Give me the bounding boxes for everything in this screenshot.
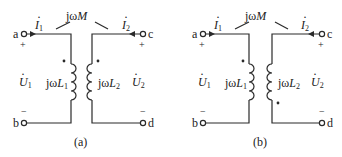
panel-b-circuit bbox=[200, 22, 324, 126]
terminal-c-label: c bbox=[327, 28, 332, 40]
inductor-l2-coil bbox=[87, 64, 92, 100]
plus-left-label: + bbox=[199, 40, 205, 50]
current-i2-label: I2 bbox=[122, 19, 130, 33]
polarity-dot-l1-icon bbox=[63, 60, 66, 63]
inductor-l2-label: jωL2 bbox=[278, 77, 300, 91]
wire-bottom-right bbox=[92, 100, 140, 123]
terminal-d-label: d bbox=[148, 117, 154, 129]
panel-b-markers bbox=[209, 31, 314, 104]
terminal-c-node bbox=[319, 31, 324, 36]
plus-right-label: + bbox=[139, 40, 145, 50]
minus-right-label: − bbox=[140, 107, 146, 117]
mutual-inductance-label: jωM bbox=[245, 10, 266, 22]
terminal-a-label: a bbox=[13, 28, 18, 40]
wire-top-left bbox=[27, 34, 71, 64]
terminal-d-node bbox=[319, 120, 324, 125]
voltage-u2-label: U2 bbox=[311, 76, 324, 90]
voltage-u2-label: U2 bbox=[132, 76, 145, 90]
mutual-leader-right bbox=[275, 22, 288, 29]
wire-top-right bbox=[92, 34, 140, 64]
wire-top-right bbox=[272, 34, 319, 64]
terminal-b-label: b bbox=[13, 117, 19, 129]
plus-right-label: + bbox=[318, 40, 324, 50]
mutual-leader-left bbox=[56, 22, 70, 29]
terminal-c-node bbox=[140, 31, 145, 36]
mutual-leader-left bbox=[235, 22, 249, 29]
terminal-a-label: a bbox=[192, 28, 197, 40]
terminal-b-node bbox=[200, 120, 205, 125]
minus-left-label: − bbox=[21, 107, 27, 117]
terminal-d-label: d bbox=[327, 117, 333, 129]
terminal-b-label: b bbox=[192, 117, 198, 129]
inductor-l1-label: jωL1 bbox=[225, 77, 247, 91]
minus-left-label: − bbox=[200, 107, 206, 117]
mutual-inductance-label: jωM bbox=[66, 10, 87, 22]
terminal-d-node bbox=[140, 120, 145, 125]
panel-a-markers bbox=[30, 31, 135, 62]
panel-a-circuit bbox=[21, 22, 145, 126]
terminal-a-node bbox=[200, 31, 205, 36]
polarity-dot-l1-icon bbox=[242, 60, 245, 63]
terminal-c-label: c bbox=[148, 28, 153, 40]
inductor-l2-coil bbox=[267, 64, 272, 100]
current-i1-label: I1 bbox=[35, 19, 43, 33]
terminal-b-node bbox=[21, 120, 26, 125]
plus-left-label: + bbox=[20, 40, 26, 50]
minus-right-label: − bbox=[319, 107, 325, 117]
polarity-dot-l2-icon bbox=[277, 102, 280, 105]
polarity-dot-l2-icon bbox=[97, 60, 100, 63]
wire-bottom-left bbox=[206, 100, 249, 123]
voltage-u1-label: U1 bbox=[198, 76, 211, 90]
inductor-l1-coil bbox=[249, 64, 254, 100]
inductor-l1-label: jωL1 bbox=[46, 77, 68, 91]
panel-b-caption: (b) bbox=[253, 135, 267, 150]
voltage-u1-label: U1 bbox=[19, 76, 32, 90]
current-i2-label: I2 bbox=[301, 19, 309, 33]
wire-bottom-left bbox=[27, 100, 71, 123]
mutual-leader-right bbox=[95, 22, 108, 29]
current-i1-label: I1 bbox=[214, 19, 222, 33]
wire-top-left bbox=[206, 34, 249, 64]
inductor-l1-coil bbox=[71, 64, 76, 100]
panel-a-caption: (a) bbox=[74, 135, 87, 150]
terminal-a-node bbox=[21, 31, 26, 36]
inductor-l2-label: jωL2 bbox=[98, 77, 120, 91]
